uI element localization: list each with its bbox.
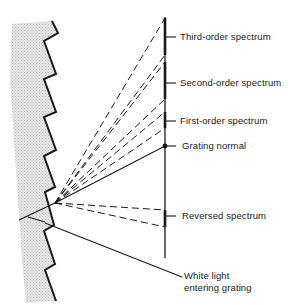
white-light-label-line1: White light bbox=[184, 270, 229, 281]
grating-normal-line bbox=[55, 146, 165, 203]
diffracted-rays bbox=[55, 18, 165, 227]
first-order-spectrum-label: First-order spectrum bbox=[180, 115, 268, 126]
diffraction-grating-diagram bbox=[0, 0, 298, 305]
reversed-spectrum-label: Reversed spectrum bbox=[182, 210, 266, 221]
grating-normal-label: Grating normal bbox=[182, 140, 246, 151]
white-light-label-line2: entering grating bbox=[184, 282, 252, 293]
grating-body bbox=[10, 21, 58, 303]
incident-white-light-ray bbox=[45, 223, 182, 277]
third-order-spectrum-label: Third-order spectrum bbox=[180, 31, 271, 42]
second-order-spectrum-label: Second-order spectrum bbox=[180, 77, 281, 88]
